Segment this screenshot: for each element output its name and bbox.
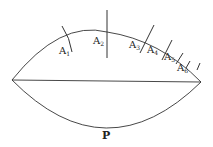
label-a1: A1 <box>58 45 70 57</box>
label-a4: A4 <box>146 44 158 56</box>
label-a3: A3 <box>128 39 140 51</box>
division-mark-7 <box>197 63 200 70</box>
label-p: P <box>102 129 110 142</box>
label-a2: A2 <box>92 35 104 47</box>
label-a6: A6 <box>176 62 188 74</box>
lower-arc <box>12 80 201 128</box>
chord-line <box>12 80 201 82</box>
lens-diagram: A1 A2 A3 A4 A5 A6 P <box>0 0 213 147</box>
label-a5: A5 <box>163 51 175 63</box>
